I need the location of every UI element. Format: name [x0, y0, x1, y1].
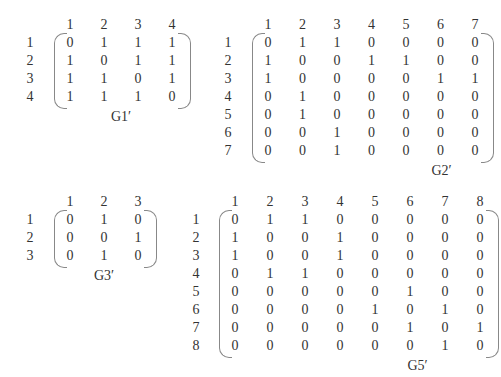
column-label: 5 — [365, 193, 385, 211]
column-label: 6 — [400, 193, 420, 211]
row-label: 4 — [186, 265, 206, 283]
matrix-cell: 0 — [400, 247, 420, 265]
matrix-cell: 0 — [293, 52, 313, 70]
left-bracket — [219, 210, 232, 358]
matrix-cell: 1 — [94, 34, 114, 52]
matrix-cell: 1 — [435, 337, 455, 355]
matrix-cell: 1 — [293, 88, 313, 106]
column-label: 2 — [94, 16, 114, 34]
matrix-cell: 0 — [435, 283, 455, 301]
matrix-cell: 1 — [431, 70, 451, 88]
matrix-cell: 0 — [295, 319, 315, 337]
row-label: 6 — [186, 301, 206, 319]
column-label: 3 — [295, 193, 315, 211]
matrix-cell: 0 — [435, 247, 455, 265]
left-bracket — [252, 33, 265, 163]
matrix-cell: 0 — [295, 247, 315, 265]
matrix-cell: 0 — [362, 70, 382, 88]
left-bracket — [54, 210, 67, 268]
row-label: 3 — [218, 70, 238, 88]
row-label: 1 — [20, 34, 40, 52]
matrix-cell: 1 — [260, 211, 280, 229]
matrix-cell: 1 — [94, 70, 114, 88]
matrix-cell: 1 — [128, 52, 148, 70]
matrix-cell: 0 — [293, 70, 313, 88]
matrix-cell: 1 — [293, 34, 313, 52]
matrix-cell: 0 — [260, 301, 280, 319]
matrix-cell: 0 — [365, 247, 385, 265]
matrix-cell: 0 — [396, 106, 416, 124]
column-label: 3 — [128, 16, 148, 34]
matrix-cell: 0 — [400, 265, 420, 283]
column-label: 3 — [327, 16, 347, 34]
column-label: 1 — [225, 193, 245, 211]
row-label: 3 — [20, 70, 40, 88]
column-label: 2 — [293, 16, 313, 34]
matrix-cell: 0 — [431, 106, 451, 124]
matrix-cell: 0 — [396, 88, 416, 106]
matrix-cell: 0 — [400, 211, 420, 229]
matrix-cell: 0 — [293, 124, 313, 142]
matrix-cell: 0 — [365, 265, 385, 283]
matrix-cell: 0 — [260, 283, 280, 301]
matrix-cell: 1 — [94, 211, 114, 229]
matrix-cell: 1 — [94, 88, 114, 106]
matrix-cell: 0 — [400, 301, 420, 319]
matrix-cell: 0 — [365, 229, 385, 247]
matrix-cell: 0 — [260, 247, 280, 265]
matrix-cell: 0 — [431, 34, 451, 52]
matrix-cell: 0 — [365, 211, 385, 229]
row-label: 2 — [20, 229, 40, 247]
column-label: 4 — [330, 193, 350, 211]
column-label: 2 — [94, 193, 114, 211]
right-bracket — [144, 210, 157, 268]
matrix-cell: 0 — [330, 319, 350, 337]
matrix-cell: 0 — [362, 106, 382, 124]
right-bracket — [178, 33, 191, 109]
column-label: 1 — [60, 16, 80, 34]
matrix-cell: 1 — [330, 229, 350, 247]
matrix-cell: 1 — [327, 124, 347, 142]
matrix-cell: 0 — [330, 337, 350, 355]
row-label: 4 — [218, 88, 238, 106]
matrix-cell: 0 — [435, 265, 455, 283]
matrix-cell: 0 — [295, 283, 315, 301]
matrix-cell: 0 — [94, 52, 114, 70]
matrix-cell: 0 — [365, 337, 385, 355]
matrix-cell: 0 — [431, 52, 451, 70]
column-label: 8 — [470, 193, 490, 211]
matrix-cell: 0 — [330, 283, 350, 301]
matrix-cell: 0 — [260, 319, 280, 337]
row-label: 8 — [186, 337, 206, 355]
matrix-cell: 1 — [362, 52, 382, 70]
matrix-cell: 0 — [362, 142, 382, 160]
row-label: 1 — [218, 34, 238, 52]
row-label: 4 — [20, 88, 40, 106]
column-label: 7 — [465, 16, 485, 34]
matrix-cell: 0 — [362, 124, 382, 142]
right-bracket — [486, 210, 499, 358]
matrix-cell: 1 — [94, 247, 114, 265]
matrix-cell: 0 — [94, 229, 114, 247]
matrix-cell: 0 — [330, 211, 350, 229]
matrix-cell: 0 — [260, 229, 280, 247]
column-label: 4 — [162, 16, 182, 34]
matrix-cell: 0 — [365, 319, 385, 337]
matrix-cell: 1 — [128, 88, 148, 106]
matrix-cell: 1 — [400, 319, 420, 337]
row-label: 6 — [218, 124, 238, 142]
matrix-cell: 0 — [396, 34, 416, 52]
left-bracket — [54, 33, 67, 109]
column-label: 1 — [258, 16, 278, 34]
row-label: 2 — [20, 52, 40, 70]
matrix-cell: 0 — [327, 88, 347, 106]
matrix-cell: 0 — [400, 229, 420, 247]
matrix-cell: 0 — [327, 70, 347, 88]
matrix-cell: 0 — [435, 229, 455, 247]
row-label: 5 — [218, 106, 238, 124]
row-label: 3 — [20, 247, 40, 265]
matrix-cell: 1 — [365, 301, 385, 319]
row-label: 7 — [186, 319, 206, 337]
row-label: 7 — [218, 142, 238, 160]
matrix-cell: 0 — [431, 88, 451, 106]
